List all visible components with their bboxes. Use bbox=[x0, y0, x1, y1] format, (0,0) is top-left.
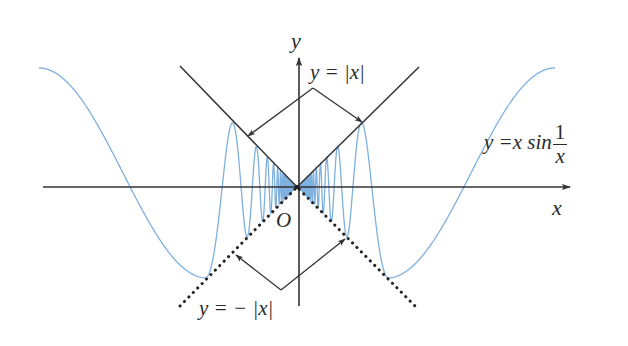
upper-callout-arrows bbox=[248, 88, 362, 136]
x-axis-label: x bbox=[552, 197, 562, 219]
lower-bound-equation: y = − |x| bbox=[199, 296, 273, 320]
upper-bound-label: y = |x| bbox=[309, 62, 366, 83]
curve-label: y =x sin1x bbox=[484, 122, 567, 167]
lower-callout-arrows bbox=[236, 239, 345, 290]
curve-label-prefix: y =x sin bbox=[484, 130, 552, 154]
diagram-canvas bbox=[0, 0, 628, 346]
y-axis-label: y bbox=[291, 30, 301, 52]
fraction-numerator: 1 bbox=[553, 122, 568, 145]
origin-label: O bbox=[276, 210, 291, 231]
curve-label-fraction: 1x bbox=[553, 122, 568, 167]
origin-point bbox=[295, 185, 299, 189]
lower-bound-label: y = − |x| bbox=[199, 298, 273, 319]
fraction-denominator: x bbox=[553, 145, 568, 167]
upper-bound-equation: y = |x| bbox=[310, 60, 365, 84]
